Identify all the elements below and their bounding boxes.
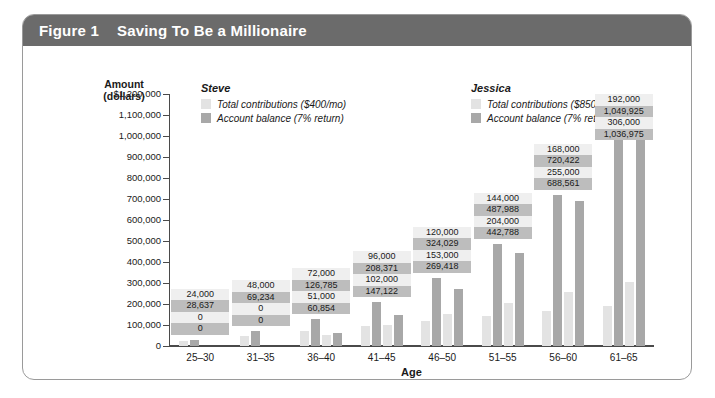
- bar-steve_balance[interactable]: [493, 244, 502, 346]
- y-axis-tick-label: 0: [156, 340, 161, 352]
- bar-group: 24,00028,6370025–30: [170, 94, 231, 346]
- figure-header: Figure 1 Saving To Be a Millionaire: [23, 15, 691, 46]
- y-axis-tick: $1,200,000: [69, 88, 169, 100]
- bar-steve_balance[interactable]: [614, 126, 623, 346]
- bar-steve_contrib[interactable]: [603, 306, 612, 346]
- value-label-steve_contrib: 72,000: [292, 268, 350, 280]
- value-label-steve_contrib: 96,000: [353, 251, 411, 263]
- x-axis-tick-label: 25–30: [186, 352, 214, 363]
- figure-card: Figure 1 Saving To Be a Millionaire Amou…: [22, 14, 692, 380]
- y-axis-tick-label: 600,000: [127, 214, 161, 226]
- value-label-jessica_contrib: 255,000: [534, 167, 592, 179]
- y-axis-tick-label: 800,000: [127, 172, 161, 184]
- value-label-steve_contrib: 24,000: [171, 289, 229, 301]
- y-axis-tick: 700,000: [69, 193, 169, 205]
- bar-group-value-labels: 168,000720,422255,000688,561: [534, 144, 592, 190]
- y-axis-tick-label: $1,200,000: [113, 88, 161, 100]
- value-label-steve_contrib: 120,000: [413, 227, 471, 239]
- bar-group-value-labels: 48,00069,23400: [232, 280, 290, 326]
- bar-jessica_contrib[interactable]: [383, 325, 392, 346]
- value-label-steve_contrib: 48,000: [232, 280, 290, 292]
- value-label-jessica_balance: 1,036,975: [595, 129, 653, 141]
- bar-group: 192,0001,049,925306,0001,036,97561–65: [594, 94, 655, 346]
- value-label-steve_contrib: 168,000: [534, 144, 592, 156]
- x-axis-tick-label: 31–35: [247, 352, 275, 363]
- y-axis-tick: 200,000: [69, 298, 169, 310]
- x-axis-tick-label: 51–55: [489, 352, 517, 363]
- value-label-steve_contrib: 144,000: [474, 193, 532, 205]
- value-label-jessica_balance: 0: [171, 323, 229, 335]
- bar-jessica_balance[interactable]: [454, 289, 463, 346]
- bar-steve_contrib[interactable]: [482, 316, 491, 346]
- bar-group-value-labels: 24,00028,63700: [171, 289, 229, 335]
- value-label-steve_balance: 324,029: [413, 238, 471, 250]
- x-axis-tick-label: 41–45: [368, 352, 396, 363]
- value-label-jessica_balance: 688,561: [534, 178, 592, 190]
- value-label-jessica_balance: 0: [232, 315, 290, 327]
- value-label-steve_balance: 487,988: [474, 204, 532, 216]
- bar-steve_contrib[interactable]: [542, 311, 551, 346]
- bar-steve_contrib[interactable]: [240, 336, 249, 346]
- figure-title: Saving To Be a Millionaire: [117, 22, 307, 39]
- value-label-jessica_balance: 442,788: [474, 227, 532, 239]
- bar-jessica_balance[interactable]: [333, 333, 342, 346]
- bar-steve_balance[interactable]: [251, 331, 260, 346]
- y-axis-tick-label: 700,000: [127, 193, 161, 205]
- y-axis-tick-label: 200,000: [127, 298, 161, 310]
- x-axis-title: Age: [169, 366, 654, 378]
- bar-group: 48,00069,2340031–35: [231, 94, 292, 346]
- bar-group-value-labels: 192,0001,049,925306,0001,036,975: [595, 94, 653, 140]
- bar-group: 144,000487,988204,000442,78851–55: [473, 94, 534, 346]
- bar-steve_balance[interactable]: [190, 340, 199, 346]
- x-axis-tick-label: 61–65: [610, 352, 638, 363]
- value-label-jessica_contrib: 102,000: [353, 274, 411, 286]
- value-label-jessica_contrib: 153,000: [413, 250, 471, 262]
- value-label-jessica_balance: 147,122: [353, 286, 411, 298]
- y-axis-tick-label: 500,000: [127, 235, 161, 247]
- y-axis-tick-label: 100,000: [127, 319, 161, 331]
- y-axis-ticks: $1,200,0001,100,0001,000,000900,000800,0…: [69, 94, 169, 346]
- x-axis-tick-label: 36–40: [307, 352, 335, 363]
- y-axis-tick-label: 1,100,000: [119, 109, 161, 121]
- bar-jessica_contrib[interactable]: [322, 335, 331, 346]
- value-label-jessica_contrib: 306,000: [595, 117, 653, 129]
- value-label-steve_balance: 28,637: [171, 300, 229, 312]
- bar-jessica_contrib[interactable]: [625, 282, 634, 346]
- bar-steve_balance[interactable]: [372, 302, 381, 346]
- bar-jessica_contrib[interactable]: [443, 314, 452, 346]
- value-label-steve_balance: 1,049,925: [595, 106, 653, 118]
- bar-jessica_contrib[interactable]: [564, 292, 573, 346]
- bar-steve_contrib[interactable]: [421, 321, 430, 346]
- bar-jessica_balance[interactable]: [515, 253, 524, 346]
- value-label-jessica_balance: 269,418: [413, 261, 471, 273]
- bar-jessica_contrib[interactable]: [504, 303, 513, 346]
- y-axis-tick: 500,000: [69, 235, 169, 247]
- value-label-steve_balance: 126,785: [292, 280, 350, 292]
- bar-jessica_balance[interactable]: [636, 128, 645, 346]
- y-axis-tick-label: 900,000: [127, 151, 161, 163]
- value-label-steve_contrib: 192,000: [595, 94, 653, 106]
- bar-steve_balance[interactable]: [432, 278, 441, 346]
- bar-group: 120,000324,029153,000269,41846–50: [412, 94, 473, 346]
- bar-steve_balance[interactable]: [311, 319, 320, 346]
- bar-steve_contrib[interactable]: [300, 331, 309, 346]
- bar-steve_contrib[interactable]: [179, 341, 188, 346]
- bar-jessica_balance[interactable]: [394, 315, 403, 346]
- bar-group-value-labels: 120,000324,029153,000269,418: [413, 227, 471, 273]
- value-label-jessica_balance: 60,854: [292, 303, 350, 315]
- value-label-jessica_contrib: 204,000: [474, 216, 532, 228]
- value-label-steve_balance: 208,371: [353, 263, 411, 275]
- value-label-jessica_contrib: 0: [232, 303, 290, 315]
- value-label-jessica_contrib: 51,000: [292, 291, 350, 303]
- bar-jessica_balance[interactable]: [575, 201, 584, 346]
- y-axis-tick: 100,000: [69, 319, 169, 331]
- bar-group-bars: [533, 94, 594, 346]
- bar-steve_contrib[interactable]: [361, 326, 370, 346]
- chart-plot-area: Amount (dollars) $1,200,0001,100,0001,00…: [23, 46, 691, 381]
- y-axis-tick: 0: [69, 340, 169, 352]
- bar-group-value-labels: 96,000208,371102,000147,122: [353, 251, 411, 297]
- y-axis-tick: 400,000: [69, 256, 169, 268]
- value-label-jessica_contrib: 0: [171, 312, 229, 324]
- bar-steve_balance[interactable]: [553, 195, 562, 346]
- value-label-steve_balance: 69,234: [232, 292, 290, 304]
